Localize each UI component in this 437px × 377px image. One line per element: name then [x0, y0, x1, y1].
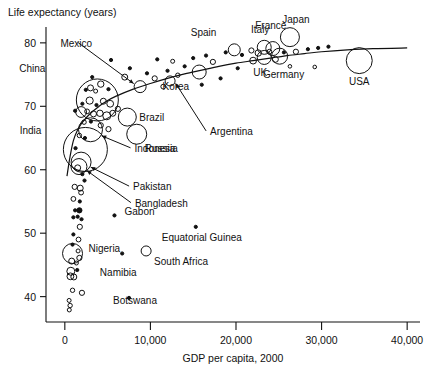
- data-point: [98, 81, 104, 87]
- point-label: Equatorial Guinea: [162, 232, 242, 243]
- label-leader-line: [78, 43, 134, 84]
- data-point: [317, 46, 320, 49]
- labeled-data-point: [127, 124, 147, 144]
- data-point: [106, 127, 111, 132]
- data-point: [78, 200, 81, 203]
- data-point: [327, 45, 330, 48]
- data-point: [67, 298, 71, 302]
- data-point: [224, 51, 227, 54]
- data-point: [74, 209, 77, 212]
- data-point: [81, 102, 84, 105]
- labeled-data-point: [118, 108, 136, 126]
- data-point: [94, 89, 98, 93]
- data-point: [240, 53, 243, 56]
- data-point: [210, 59, 215, 64]
- data-point: [72, 233, 75, 236]
- data-point: [67, 308, 71, 312]
- point-label: Botswana: [113, 295, 157, 306]
- data-point: [107, 88, 110, 91]
- labeled-data-point: [346, 48, 372, 74]
- labeled-data-point: [113, 214, 116, 217]
- labeled-data-point: [63, 127, 107, 171]
- data-point: [85, 109, 90, 114]
- labeled-data-point: [121, 252, 124, 255]
- x-tick-label: 20,000: [220, 334, 252, 346]
- x-tick-label: 0: [62, 334, 68, 346]
- point-label: Argentina: [210, 126, 253, 137]
- data-point: [77, 224, 82, 229]
- data-point: [313, 65, 317, 69]
- point-label: India: [20, 125, 42, 136]
- data-point: [166, 69, 169, 72]
- data-point: [236, 67, 239, 70]
- scatter-plot: Life expectancy (years) 4050607080 010,0…: [0, 0, 437, 377]
- point-label: Spain: [191, 27, 217, 38]
- point-label: Mexico: [60, 38, 92, 49]
- data-point: [107, 100, 114, 107]
- data-point: [109, 58, 112, 61]
- point-label: USA: [349, 76, 370, 87]
- y-tick-label: 80: [24, 37, 36, 49]
- point-label: Pakistan: [133, 181, 171, 192]
- point-label: Japan: [282, 14, 309, 25]
- point-label: Indonesia: [135, 143, 179, 154]
- data-point: [249, 48, 254, 53]
- data-point: [83, 179, 86, 182]
- data-point: [156, 58, 159, 61]
- data-point: [71, 197, 76, 202]
- labeled-data-point: [257, 50, 271, 64]
- chart-root: Life expectancy (years) 4050607080 010,0…: [0, 0, 437, 377]
- data-point: [76, 268, 79, 271]
- data-point: [97, 110, 103, 116]
- point-label: South Africa: [154, 256, 208, 267]
- data-point: [192, 56, 195, 59]
- data-point: [76, 237, 81, 242]
- y-tick-label: 70: [24, 100, 36, 112]
- point-label: Nigeria: [89, 243, 121, 254]
- axes: [46, 27, 420, 322]
- data-point: [293, 49, 298, 54]
- labeled-data-point: [194, 225, 197, 228]
- data-point: [219, 77, 222, 80]
- label-leader-line: [91, 167, 129, 186]
- labeled-data-point: [71, 152, 91, 172]
- x-tick-label: 40,000: [391, 334, 423, 346]
- data-point: [171, 59, 175, 63]
- data-point: [80, 218, 83, 221]
- labeled-data-point: [228, 44, 240, 56]
- y-axis-ticks: 4050607080: [24, 37, 46, 303]
- data-point: [76, 249, 80, 253]
- data-point: [86, 97, 93, 104]
- data-point: [70, 288, 74, 292]
- x-axis-ticks: 010,00020,00030,00040,000: [62, 322, 423, 346]
- data-point: [306, 48, 309, 51]
- point-label: Gabon: [125, 206, 155, 217]
- point-label: China: [19, 63, 46, 74]
- label-leader-line: [87, 171, 131, 203]
- y-tick-label: 50: [24, 227, 36, 239]
- y-axis-title: Life expectancy (years): [8, 6, 117, 18]
- data-point: [200, 83, 203, 86]
- y-tick-label: 40: [24, 291, 36, 303]
- data-point: [72, 184, 77, 189]
- data-point: [91, 111, 97, 117]
- data-point: [77, 208, 82, 213]
- data-point: [95, 103, 98, 106]
- point-label: Korea: [163, 81, 190, 92]
- point-label: Germany: [263, 69, 304, 80]
- data-point: [145, 72, 148, 75]
- x-tick-label: 30,000: [306, 334, 338, 346]
- x-axis-title: GDP per capita, 2000: [183, 352, 284, 364]
- labeled-data-point: [141, 246, 151, 256]
- data-point: [183, 65, 186, 68]
- data-point: [84, 88, 87, 91]
- data-point: [128, 67, 131, 70]
- data-point: [282, 51, 285, 54]
- data-point: [288, 65, 292, 69]
- data-point: [88, 85, 94, 91]
- data-point: [72, 216, 75, 219]
- y-tick-label: 60: [24, 164, 36, 176]
- labeled-data-points: [63, 28, 373, 300]
- data-point: [91, 76, 94, 79]
- data-point: [79, 290, 84, 295]
